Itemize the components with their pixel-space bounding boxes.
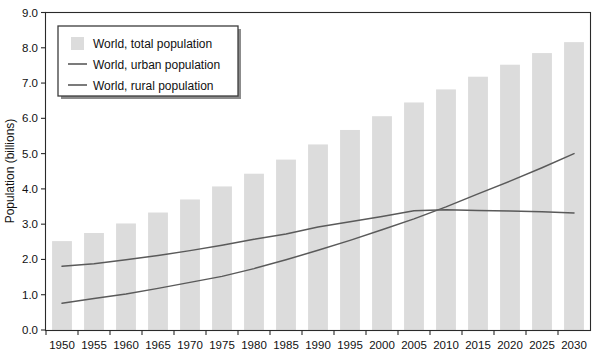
x-tick-label-1950: 1950 (49, 339, 75, 351)
x-tick-label-1965: 1965 (145, 339, 171, 351)
y-axis-label: Population (billions) (3, 119, 17, 224)
chart-canvas: 0.01.02.03.04.05.06.07.08.09.0 195019551… (0, 0, 605, 356)
y-tick-label: 8.0 (22, 42, 38, 54)
x-tick-label-2005: 2005 (401, 339, 427, 351)
y-tick-label: 3.0 (22, 218, 38, 230)
y-tick-label: 0.0 (22, 324, 38, 336)
x-tick-label-1985: 1985 (273, 339, 299, 351)
bar-1980 (244, 174, 264, 330)
bar-1985 (276, 160, 296, 330)
x-tick-label-2015: 2015 (465, 339, 491, 351)
x-tick-label-2010: 2010 (433, 339, 459, 351)
y-tick-label: 7.0 (22, 77, 38, 89)
bar-2020 (500, 65, 520, 330)
y-tick-label: 4.0 (22, 183, 38, 195)
x-tick-label-2025: 2025 (529, 339, 555, 351)
legend-label-0: World, total population (93, 37, 212, 51)
x-tick-label-1975: 1975 (209, 339, 235, 351)
x-tick-label-1955: 1955 (81, 339, 107, 351)
bar-1955 (84, 233, 104, 330)
x-tick-label-1980: 1980 (241, 339, 267, 351)
y-tick-label: 9.0 (22, 7, 38, 19)
x-tick-label-1990: 1990 (305, 339, 331, 351)
x-tick-label-2020: 2020 (497, 339, 523, 351)
legend-label-1: World, urban population (93, 58, 220, 72)
bar-2000 (372, 116, 392, 330)
legend-swatch-total (71, 37, 84, 50)
x-tick-label-1970: 1970 (177, 339, 203, 351)
bar-1950 (52, 241, 72, 330)
y-tick-label: 6.0 (22, 112, 38, 124)
bar-2025 (532, 53, 552, 330)
x-tick-label-2030: 2030 (561, 339, 587, 351)
bar-1975 (212, 186, 232, 330)
bar-2015 (468, 77, 488, 330)
bar-2030 (564, 42, 584, 330)
y-tick-label: 1.0 (22, 289, 38, 301)
x-tick-label-1960: 1960 (113, 339, 139, 351)
bar-1970 (180, 199, 200, 330)
bar-1995 (340, 130, 360, 330)
population-chart: 0.01.02.03.04.05.06.07.08.09.0 195019551… (0, 0, 605, 356)
bar-1990 (308, 144, 328, 330)
chart-legend: World, total populationWorld, urban popu… (58, 26, 241, 99)
bar-1960 (116, 223, 136, 330)
x-tick-label-1995: 1995 (337, 339, 363, 351)
y-tick-label: 2.0 (22, 253, 38, 265)
legend-label-2: World, rural population (93, 79, 214, 93)
bar-1965 (148, 213, 168, 330)
y-tick-label: 5.0 (22, 148, 38, 160)
x-tick-label-2000: 2000 (369, 339, 395, 351)
